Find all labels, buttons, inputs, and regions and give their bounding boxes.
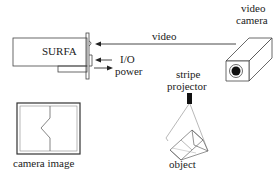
arrow-right-icon — [107, 66, 113, 71]
video-label: video — [152, 30, 177, 42]
camera-image: camera image — [13, 103, 80, 169]
camera-image-label: camera image — [13, 157, 74, 169]
projector-label-line2: projector — [167, 80, 207, 92]
surfa-label: SURFA — [42, 45, 77, 57]
camera-image-inner — [20, 106, 77, 151]
stripe-profile — [41, 106, 50, 151]
surfa-unit: SURFA — [13, 33, 92, 79]
camera-lens-icon — [232, 67, 241, 76]
projector-label-line1: stripe — [176, 68, 201, 80]
object-label: object — [169, 158, 196, 170]
camera-label-line1: video — [241, 2, 266, 14]
video-camera: video camera — [226, 2, 272, 81]
arrow-left-icon — [95, 58, 101, 63]
power-label: power — [115, 65, 143, 77]
io-label: I/O — [120, 53, 135, 65]
io-port — [89, 55, 92, 66]
projector-icon — [187, 93, 192, 104]
surfa-system-diagram: SURFA video I/O power video camera strip… — [0, 0, 279, 184]
io-power-arrows: I/O power — [94, 53, 143, 77]
camera-image-frame — [17, 103, 80, 154]
video-signal-arrow: video — [95, 30, 236, 47]
surfa-connector-tab — [58, 66, 87, 72]
arrow-head-icon — [95, 42, 101, 47]
camera-label-line2: camera — [236, 14, 268, 26]
